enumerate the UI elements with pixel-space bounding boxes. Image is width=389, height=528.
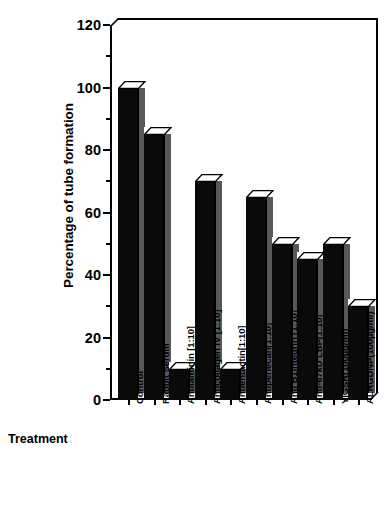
bar-top-face: [297, 252, 325, 259]
plot-frame-right: [376, 18, 378, 393]
tick-mark: [106, 305, 110, 307]
x-category-label: YIGSR(100µg/ml): [339, 329, 350, 404]
tick-mark: [106, 118, 110, 120]
y-tick-label: 80: [85, 142, 101, 158]
y-axis-title: Percentage of tube formation: [61, 66, 76, 326]
tick-mark: [103, 212, 110, 214]
tick-mark: [103, 87, 110, 89]
x-tick-mark: [128, 400, 130, 405]
bar-top-face: [348, 299, 376, 306]
plot-frame-top: [117, 18, 378, 20]
x-category-label: Antientactin[1:10]: [236, 326, 247, 404]
tick-mark: [106, 55, 110, 57]
x-category-label: Anti B1integrin [1:10]: [288, 310, 299, 404]
y-axis-line: [110, 25, 112, 400]
x-category-label: Anti-67kD LBP[1:10]: [313, 315, 324, 404]
y-tick-label: 120: [77, 17, 101, 33]
y-tick-label: 0: [93, 392, 101, 408]
x-category-label-text: Anti-67kD LBP[1:10]: [313, 315, 324, 404]
x-tick-mark: [256, 400, 258, 405]
bar-top-face: [144, 127, 172, 134]
x-category-label: Rabbit Serum: [160, 343, 171, 404]
x-axis-title: Treatment: [8, 432, 68, 446]
y-tick-label: 20: [85, 329, 101, 345]
x-category-label-text: Control: [134, 371, 145, 404]
x-category-label-text: Anti B1integrin [1:10]: [288, 310, 299, 404]
x-tick-mark: [282, 400, 284, 405]
x-category-label-text: YIGSR(100µg/ml): [339, 329, 350, 404]
x-category-label-text: Rabbit Serum: [160, 343, 171, 404]
tick-mark: [103, 337, 110, 339]
tick-mark: [103, 274, 110, 276]
bar-chart-figure: Percentage of tube formation Treatment 0…: [0, 0, 389, 528]
tick-mark: [103, 24, 110, 26]
x-tick-mark: [307, 400, 309, 405]
x-category-label-text: Antiperlecan[1:10]: [262, 323, 273, 404]
bar: [118, 81, 138, 401]
x-category-label-text: ALRGDNP(100µg/ml): [364, 312, 375, 404]
y-tick-label: 100: [77, 79, 101, 95]
y-tick-label: 40: [85, 267, 101, 283]
x-category-label: Anticollagen IV [1:10]: [211, 310, 222, 404]
tick-mark: [103, 399, 110, 401]
tick-mark: [106, 368, 110, 370]
x-category-label: Antilaminin [1:10]: [185, 326, 196, 404]
tick-mark: [103, 149, 110, 151]
bar-top-face: [323, 237, 351, 244]
tick-mark: [106, 180, 110, 182]
bar-top-face: [246, 190, 274, 197]
x-category-label: Control: [134, 371, 145, 404]
x-tick-mark: [205, 400, 207, 405]
depth-connector-top-left: [110, 18, 119, 27]
y-tick-label: 60: [85, 204, 101, 220]
bar-top-face: [272, 237, 300, 244]
bar-top-face: [195, 174, 223, 181]
x-tick-mark: [230, 400, 232, 405]
x-tick-mark: [179, 400, 181, 405]
x-tick-mark: [154, 400, 156, 405]
x-category-label-text: Antilaminin [1:10]: [185, 326, 196, 404]
bar-front-face: [118, 88, 138, 401]
tick-mark: [106, 243, 110, 245]
x-tick-mark: [358, 400, 360, 405]
x-category-label: ALRGDNP(100µg/ml): [364, 312, 375, 404]
x-category-label-text: Antientactin[1:10]: [236, 326, 247, 404]
x-tick-mark: [333, 400, 335, 405]
x-category-label-text: Anticollagen IV [1:10]: [211, 310, 222, 404]
bar-top-face: [118, 81, 146, 88]
x-category-label: Antiperlecan[1:10]: [262, 323, 273, 404]
